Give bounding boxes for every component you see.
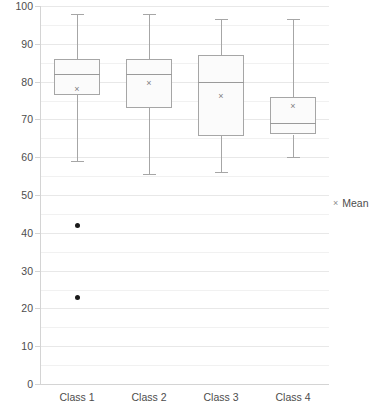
mean-marker-icon: × [289,102,298,111]
box-plot-chart: 1009080706050403020100 ×××× Class 1Class… [0,0,379,411]
mean-marker-icon: × [73,85,82,94]
whisker-cap-lower [287,157,300,158]
y-tick-mark [35,6,41,7]
whisker-cap-upper [143,14,156,15]
x-axis-labels: Class 1Class 2Class 3Class 4 [41,390,329,406]
x-axis-line [41,384,329,385]
y-tick-mark [35,82,41,83]
x-tick-label-2: Class 2 [131,390,166,404]
y-tick-label: 30 [0,265,33,276]
y-tick-label: 60 [0,152,33,163]
median-line [198,82,244,83]
y-tick-mark [35,195,41,196]
y-tick-label: 50 [0,190,33,201]
box-plot-3[interactable]: × [198,0,244,378]
y-tick-mark [35,271,41,272]
x-tick-label-1: Class 1 [59,390,94,404]
y-tick-mark [35,308,41,309]
y-tick-mark [35,346,41,347]
whisker-upper [149,14,150,59]
y-tick-label: 90 [0,39,33,50]
y-tick-label: 70 [0,114,33,125]
y-tick-label: 100 [0,1,33,12]
whisker-cap-lower [215,172,228,173]
y-tick-label: 80 [0,76,33,87]
whisker-lower [77,95,78,161]
whisker-lower [293,135,294,158]
box-plot-4[interactable]: × [270,0,316,378]
whisker-lower [149,108,150,174]
whisker-cap-lower [71,161,84,162]
y-tick-mark [35,157,41,158]
mean-marker-icon: × [217,92,226,101]
outlier-point[interactable] [75,223,80,228]
y-axis-labels: 1009080706050403020100 [0,0,33,411]
median-line [270,123,316,124]
whisker-upper [221,19,222,55]
whisker-upper [77,14,78,59]
y-tick-mark [35,119,41,120]
chart-legend: × Mean [333,198,369,209]
whisker-cap-upper [71,14,84,15]
y-tick-label: 0 [0,379,33,390]
whisker-cap-upper [287,19,300,20]
legend-mean-marker-icon: × [333,199,338,208]
outlier-point[interactable] [75,295,80,300]
y-tick-label: 40 [0,228,33,239]
median-line [54,74,100,75]
y-tick-mark [35,44,41,45]
box-plot-1[interactable]: × [54,0,100,378]
box-plot-2[interactable]: × [126,0,172,378]
median-line [126,74,172,75]
y-tick-label: 20 [0,303,33,314]
y-tick-mark [35,384,41,385]
x-tick-label-3: Class 3 [203,390,238,404]
whisker-cap-lower [143,174,156,175]
legend-mean-label: Mean [342,198,368,209]
x-tick-label-4: Class 4 [275,390,310,404]
mean-marker-icon: × [145,79,154,88]
y-tick-mark [35,233,41,234]
y-tick-label: 10 [0,341,33,352]
whisker-upper [293,19,294,97]
whisker-lower [221,136,222,172]
whisker-cap-upper [215,19,228,20]
